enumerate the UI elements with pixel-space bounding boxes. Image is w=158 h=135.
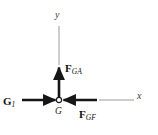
vector-label-fgf: FGF: [79, 105, 96, 121]
x-axis-label: x: [137, 91, 141, 101]
vector-label-g1-name: G: [3, 95, 12, 107]
vector-label-fga-subscript: GA: [72, 67, 82, 76]
vector-label-fgf-name: F: [79, 108, 86, 120]
vector-label-g1-subscript: 1: [12, 100, 16, 109]
vector-label-fgf-subscript: GF: [86, 113, 96, 122]
vector-label-fga-name: F: [65, 62, 72, 74]
free-body-diagram: G1 FGA FGF y x G: [0, 0, 158, 135]
vector-label-g1: G1: [3, 92, 15, 108]
vector-label-fga: FGA: [65, 59, 82, 75]
origin-label-g: G: [55, 107, 62, 117]
y-axis-label: y: [55, 10, 59, 20]
origin-node-g: [56, 97, 61, 102]
